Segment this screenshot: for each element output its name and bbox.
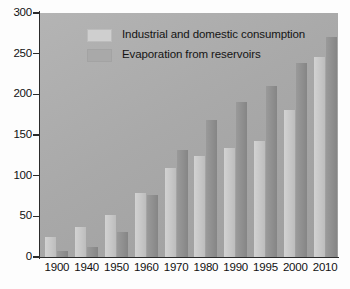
x-axis-tick-label: 2010 [305, 262, 345, 274]
bar [75, 227, 86, 257]
bar [296, 63, 307, 257]
y-axis-tick-label: 200 [13, 88, 32, 100]
y-axis-tick-label: 250 [13, 48, 32, 60]
bar-group [45, 13, 68, 257]
y-axis-tick [33, 12, 39, 13]
y-axis-tick [33, 94, 39, 95]
legend-label: Evaporation from reservoirs [122, 49, 261, 61]
bar [284, 110, 295, 257]
y-axis-line [39, 11, 40, 259]
chart-legend: Industrial and domestic consumptionEvapo… [87, 27, 305, 67]
bar [45, 237, 56, 257]
x-axis-line [39, 257, 339, 258]
plot-area: Industrial and domestic consumptionEvapo… [40, 13, 338, 257]
bar [254, 141, 265, 257]
bar [177, 150, 188, 257]
bar [105, 215, 116, 257]
legend-swatch [87, 49, 112, 62]
bar [194, 156, 205, 257]
bar [326, 37, 337, 257]
bar [135, 193, 146, 257]
bar [224, 148, 235, 257]
bar [165, 168, 176, 257]
y-axis-tick-label: 300 [13, 7, 32, 19]
legend-item: Industrial and domestic consumption [87, 27, 305, 43]
bar [236, 102, 247, 257]
chart-figure: Industrial and domestic consumptionEvapo… [0, 0, 350, 289]
bar [87, 247, 98, 257]
legend-item: Evaporation from reservoirs [87, 47, 305, 63]
bar [314, 57, 325, 257]
y-axis-tick [33, 256, 39, 257]
y-axis-tick-label: 0 [26, 251, 32, 263]
y-axis-tick [33, 216, 39, 217]
y-axis-tick-label: 100 [13, 170, 32, 182]
bar [147, 195, 158, 257]
legend-label: Industrial and domestic consumption [122, 29, 305, 41]
y-axis-tick [33, 53, 39, 54]
bar-group [314, 13, 337, 257]
y-axis-tick-label: 50 [20, 210, 32, 222]
bar [206, 120, 217, 257]
y-axis-tick [33, 175, 39, 176]
y-axis-tick-label: 150 [13, 129, 32, 141]
bar [117, 232, 128, 257]
y-axis-tick [33, 134, 39, 135]
bar [266, 86, 277, 257]
legend-swatch [87, 29, 112, 42]
